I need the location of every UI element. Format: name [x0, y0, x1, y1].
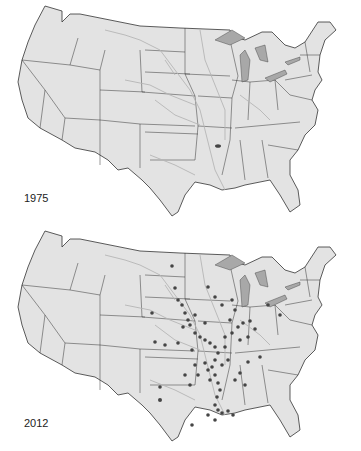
- points-1975: [215, 144, 221, 148]
- us-map-2012: [0, 225, 361, 450]
- map-panel-1975: 1975: [0, 0, 361, 225]
- us-map-1975: [0, 0, 361, 225]
- year-label-2012: 2012: [24, 417, 48, 429]
- map-panel-2012: 2012: [0, 225, 361, 450]
- year-label-1975: 1975: [24, 192, 48, 204]
